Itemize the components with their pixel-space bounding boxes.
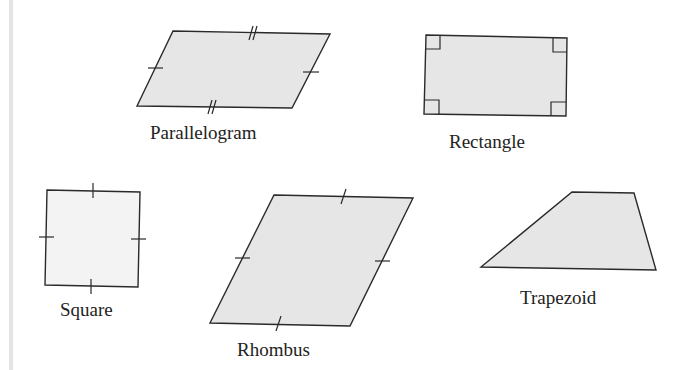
parallelogram-label: Parallelogram	[150, 122, 257, 144]
rhombus-shape	[210, 189, 413, 331]
rhombus-label: Rhombus	[237, 339, 310, 361]
trapezoid-shape	[481, 192, 656, 270]
square-label: Square	[60, 299, 113, 321]
square-shape	[39, 183, 146, 294]
trapezoid-label: Trapezoid	[520, 287, 596, 309]
rectangle-label: Rectangle	[449, 131, 525, 153]
parallelogram-shape	[137, 26, 330, 114]
rectangle-shape	[424, 35, 567, 116]
